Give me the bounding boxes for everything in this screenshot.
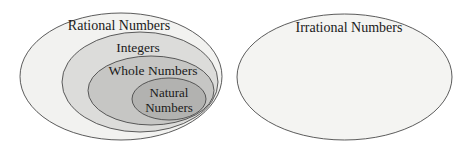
label-whole-numbers: Whole Numbers — [109, 63, 198, 78]
label-integers: Integers — [116, 40, 159, 55]
label-rational-numbers: Rational Numbers — [68, 18, 170, 33]
number-sets-venn-diagram: Rational Numbers Integers Whole Numbers … — [0, 0, 464, 151]
label-irrational-numbers: Irrational Numbers — [296, 20, 403, 35]
rational-numbers-group: Rational Numbers Integers Whole Numbers … — [20, 13, 222, 140]
label-natural-numbers-line1: Natural — [150, 85, 189, 100]
irrational-numbers-group: Irrational Numbers — [237, 14, 452, 140]
label-natural-numbers-line2: Numbers — [145, 100, 193, 115]
venn-diagram-canvas: Rational Numbers Integers Whole Numbers … — [0, 0, 464, 151]
